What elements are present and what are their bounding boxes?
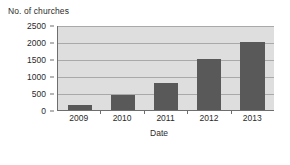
x-axis-tick-label: 2012	[187, 113, 230, 123]
y-axis-tick-mark	[50, 60, 54, 61]
y-axis-tick-labels: 05001000150020002500	[0, 26, 54, 111]
y-axis-tick-label: 1000	[27, 72, 46, 82]
bar-2009	[68, 105, 92, 110]
y-axis-tick-label: 0	[41, 106, 46, 116]
bar-chart: No. of churches 05001000150020002500 200…	[0, 0, 290, 165]
bar-2012	[197, 59, 221, 110]
y-axis-tick-mark	[50, 26, 54, 27]
bar-series	[58, 26, 274, 110]
y-axis-tick-label: 2500	[27, 21, 46, 31]
y-axis-tick-mark	[50, 43, 54, 44]
x-axis-tick-label: 2013	[231, 113, 274, 123]
bar-slot	[231, 26, 274, 110]
x-axis-tick-label: 2011	[144, 113, 187, 123]
plot-area	[57, 26, 274, 111]
y-axis-tick-label: 2000	[27, 38, 46, 48]
y-axis-tick-label: 500	[32, 89, 46, 99]
y-axis-tick-mark	[50, 77, 54, 78]
bar-slot	[144, 26, 187, 110]
x-axis-title: Date	[0, 128, 290, 138]
bar-2011	[154, 83, 178, 110]
bar-2013	[240, 42, 264, 110]
bar-slot	[101, 26, 144, 110]
y-axis-title: No. of churches	[8, 6, 69, 16]
bar-slot	[58, 26, 101, 110]
bar-2010	[111, 95, 135, 110]
x-axis-tick-labels: 20092010201120122013	[57, 113, 274, 123]
y-axis-tick-label: 1500	[27, 55, 46, 65]
bar-slot	[188, 26, 231, 110]
y-axis-tick-mark	[50, 94, 54, 95]
x-axis-tick-label: 2009	[57, 113, 100, 123]
y-axis-tick-mark	[50, 111, 54, 112]
x-axis-tick-label: 2010	[100, 113, 143, 123]
